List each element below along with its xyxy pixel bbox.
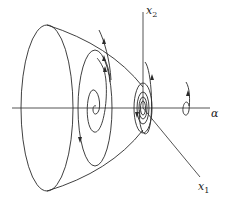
cone-top-edge (47, 25, 143, 87)
x1-axis-label: x1 (198, 180, 209, 195)
inner-spiral-trajectory (87, 58, 106, 132)
x2-axis-label: x2 (146, 4, 157, 19)
right-spiral-trajectory (183, 82, 190, 115)
alpha-axis-label: α (211, 107, 218, 120)
diagram-canvas (0, 0, 228, 202)
arrow-icon (150, 74, 154, 80)
cone-bottom-edge (47, 130, 143, 191)
